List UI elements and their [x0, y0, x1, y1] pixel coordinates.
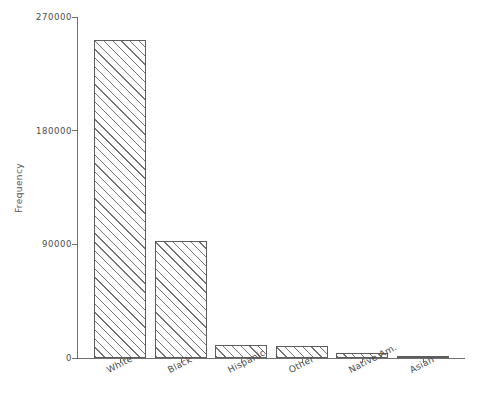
bar-white — [94, 40, 146, 358]
bar-black — [155, 241, 207, 358]
bar-other — [276, 346, 328, 358]
bar-chart: Frequency 090000180000270000 WhiteBlackH… — [0, 0, 491, 409]
plot-area — [0, 0, 491, 409]
